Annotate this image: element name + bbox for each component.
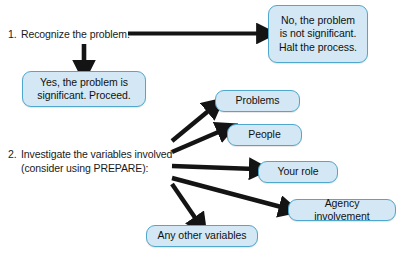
node-any-other-variables-label: Any other variables [151, 229, 254, 243]
step-1-text: 1.Recognize the problem. [8, 27, 130, 41]
node-your-role-label: Your role [270, 165, 325, 179]
node-any-other-variables[interactable]: Any other variables [146, 225, 258, 247]
step-1-number: 1. [8, 27, 21, 41]
step-2-text: 2. Investigate the variables involved (c… [8, 147, 172, 175]
arrow-step2-to-any-other-variables [172, 184, 198, 222]
step-2-number: 2. [8, 147, 21, 161]
flowchart-diagram: 1.Recognize the problem. 2. Investigate … [0, 0, 401, 256]
node-agency-involvement-label: Agency involvement [289, 197, 395, 224]
node-problems-label: Problems [229, 94, 287, 108]
node-your-role[interactable]: Your role [258, 161, 338, 183]
node-no-halt-process[interactable]: No, the problem is not significant. Halt… [268, 5, 368, 63]
node-no-halt-process-label: No, the problem is not significant. Halt… [272, 14, 364, 55]
node-people[interactable]: People [227, 124, 302, 146]
node-problems[interactable]: Problems [215, 90, 300, 112]
node-people-label: People [241, 128, 287, 142]
step-1-label: Recognize the problem. [21, 27, 130, 41]
arrow-step2-to-your-role [172, 166, 255, 169]
node-yes-proceed-label: Yes, the problem is significant. Proceed… [30, 76, 138, 103]
step-2-label-line1: Investigate the variables involved [21, 148, 172, 160]
step-2-label-line2: (consider using PREPARE): [21, 161, 172, 175]
node-yes-proceed[interactable]: Yes, the problem is significant. Proceed… [22, 71, 146, 107]
node-agency-involvement[interactable]: Agency involvement [288, 199, 396, 221]
